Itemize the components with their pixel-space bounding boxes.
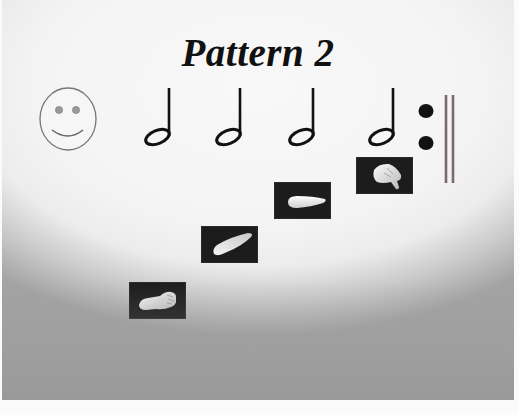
hand-thumb-down-icon — [357, 158, 412, 193]
hand-sign-step-1 — [130, 283, 185, 318]
repeat-sign-icon — [416, 95, 458, 187]
smiley-face-icon — [38, 86, 98, 152]
hand-fist-low-icon — [130, 283, 185, 318]
hand-flat-rising-icon — [202, 227, 257, 262]
half-note-icon — [211, 86, 245, 148]
half-note-icon — [284, 86, 318, 148]
hand-sign-step-3 — [275, 183, 330, 218]
slide: Pattern 2 — [2, 0, 514, 400]
slide-title: Pattern 2 — [2, 30, 514, 75]
hand-sign-step-2 — [202, 227, 257, 262]
half-note-icon — [140, 86, 174, 148]
hand-sign-step-4 — [357, 158, 412, 193]
half-note-icon — [364, 86, 398, 148]
hand-flat-level-icon — [275, 183, 330, 218]
